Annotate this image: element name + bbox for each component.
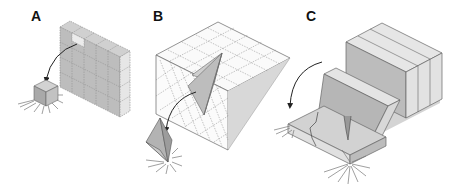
fallen-block-a — [34, 80, 58, 106]
jointed-rock-mass — [156, 22, 290, 150]
fallen-wedge-b — [146, 118, 172, 162]
diagram-canvas — [0, 0, 459, 191]
block-wall — [60, 21, 130, 117]
fall-arrow-c — [290, 62, 322, 106]
panel-c — [274, 23, 442, 184]
panel-a — [18, 21, 130, 117]
panel-b — [146, 22, 290, 174]
